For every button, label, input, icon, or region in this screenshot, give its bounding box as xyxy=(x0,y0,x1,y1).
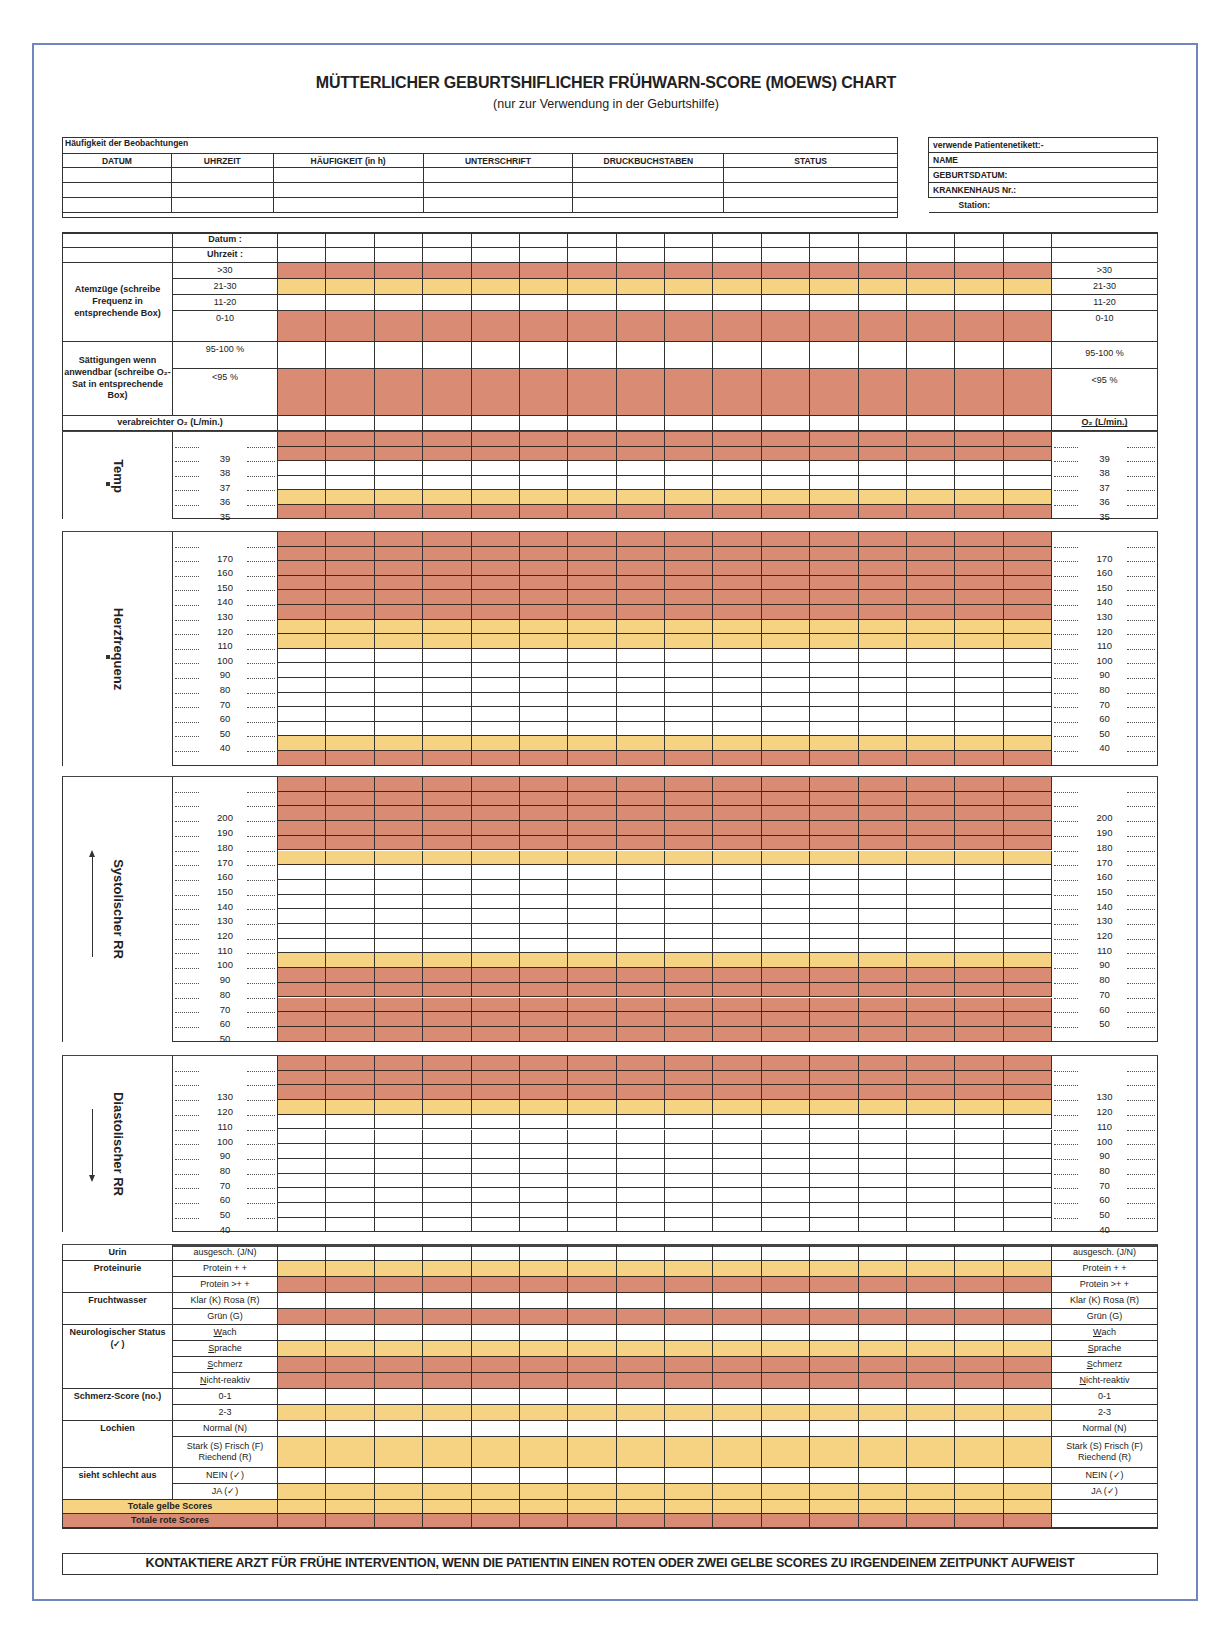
yellow-score-cell[interactable] xyxy=(568,1484,616,1500)
yellow-score-cell[interactable] xyxy=(423,634,471,649)
red-score-cell[interactable] xyxy=(665,1085,713,1100)
observation-cell[interactable] xyxy=(520,1188,568,1203)
red-score-cell[interactable] xyxy=(278,1027,326,1042)
observation-cell[interactable] xyxy=(713,295,761,311)
red-score-cell[interactable] xyxy=(520,547,568,562)
observation-cell[interactable] xyxy=(278,248,326,263)
red-score-cell[interactable] xyxy=(907,792,955,807)
yellow-score-cell[interactable] xyxy=(859,1500,907,1514)
red-score-cell[interactable] xyxy=(713,1027,761,1042)
red-score-cell[interactable] xyxy=(713,505,761,520)
red-score-cell[interactable] xyxy=(810,968,858,983)
red-score-cell[interactable] xyxy=(859,968,907,983)
observation-cell[interactable] xyxy=(520,461,568,476)
yellow-score-cell[interactable] xyxy=(375,1341,423,1357)
observation-cell[interactable] xyxy=(617,1421,665,1437)
observation-cell[interactable] xyxy=(665,909,713,924)
observation-cell[interactable] xyxy=(375,722,423,737)
red-score-cell[interactable] xyxy=(762,1309,810,1325)
red-score-cell[interactable] xyxy=(955,369,1003,416)
red-score-cell[interactable] xyxy=(472,983,520,998)
observation-cell[interactable] xyxy=(1004,1293,1052,1309)
red-score-cell[interactable] xyxy=(713,751,761,766)
observation-cell[interactable] xyxy=(1004,722,1052,737)
observation-cell[interactable] xyxy=(762,939,810,954)
observation-cell[interactable] xyxy=(423,693,471,708)
observation-cell[interactable] xyxy=(568,342,616,369)
observation-cell[interactable] xyxy=(955,416,1003,431)
observation-cell[interactable] xyxy=(472,693,520,708)
yellow-score-cell[interactable] xyxy=(859,953,907,968)
yellow-score-cell[interactable] xyxy=(375,1261,423,1277)
yellow-score-cell[interactable] xyxy=(326,1484,374,1500)
red-score-cell[interactable] xyxy=(326,590,374,605)
observation-cell[interactable] xyxy=(423,707,471,722)
red-score-cell[interactable] xyxy=(665,777,713,792)
red-score-cell[interactable] xyxy=(955,821,1003,836)
yellow-score-cell[interactable] xyxy=(568,634,616,649)
red-score-cell[interactable] xyxy=(472,751,520,766)
yellow-score-cell[interactable] xyxy=(472,1437,520,1468)
yellow-score-cell[interactable] xyxy=(326,1437,374,1468)
yellow-score-cell[interactable] xyxy=(617,279,665,295)
red-score-cell[interactable] xyxy=(423,432,471,447)
red-score-cell[interactable] xyxy=(665,751,713,766)
yellow-score-cell[interactable] xyxy=(423,1500,471,1514)
observation-cell[interactable] xyxy=(810,248,858,263)
observation-cell[interactable] xyxy=(278,1159,326,1174)
observation-cell[interactable] xyxy=(520,1115,568,1130)
observation-cell[interactable] xyxy=(326,295,374,311)
observation-cell[interactable] xyxy=(326,678,374,693)
observation-cell[interactable] xyxy=(810,232,858,248)
observation-cell[interactable] xyxy=(520,1293,568,1309)
observation-cell[interactable] xyxy=(665,1188,713,1203)
observation-cell[interactable] xyxy=(859,1293,907,1309)
observation-cell[interactable] xyxy=(423,342,471,369)
observation-cell[interactable] xyxy=(568,248,616,263)
yellow-score-cell[interactable] xyxy=(665,1405,713,1421)
yellow-score-cell[interactable] xyxy=(326,490,374,505)
observation-cell[interactable] xyxy=(1004,865,1052,880)
obs-cell[interactable] xyxy=(724,198,898,213)
red-score-cell[interactable] xyxy=(955,1514,1003,1528)
yellow-score-cell[interactable] xyxy=(810,1437,858,1468)
red-score-cell[interactable] xyxy=(423,1309,471,1325)
observation-cell[interactable] xyxy=(713,1130,761,1145)
yellow-score-cell[interactable] xyxy=(520,1437,568,1468)
red-score-cell[interactable] xyxy=(326,836,374,851)
observation-cell[interactable] xyxy=(955,342,1003,369)
yellow-score-cell[interactable] xyxy=(568,1405,616,1421)
observation-cell[interactable] xyxy=(1004,924,1052,939)
yellow-score-cell[interactable] xyxy=(762,1405,810,1421)
red-score-cell[interactable] xyxy=(713,1071,761,1086)
yellow-score-cell[interactable] xyxy=(955,736,1003,751)
yellow-score-cell[interactable] xyxy=(907,1261,955,1277)
observation-cell[interactable] xyxy=(617,939,665,954)
observation-cell[interactable] xyxy=(375,1159,423,1174)
observation-cell[interactable] xyxy=(375,678,423,693)
observation-cell[interactable] xyxy=(375,342,423,369)
red-score-cell[interactable] xyxy=(375,983,423,998)
red-score-cell[interactable] xyxy=(859,836,907,851)
observation-cell[interactable] xyxy=(568,1421,616,1437)
red-score-cell[interactable] xyxy=(326,447,374,462)
obs-cell[interactable] xyxy=(171,168,273,183)
red-score-cell[interactable] xyxy=(762,447,810,462)
patient-name-field[interactable]: NAME xyxy=(929,153,1158,168)
red-score-cell[interactable] xyxy=(907,1277,955,1293)
observation-cell[interactable] xyxy=(568,1389,616,1405)
observation-cell[interactable] xyxy=(278,1421,326,1437)
observation-cell[interactable] xyxy=(810,1389,858,1405)
yellow-score-cell[interactable] xyxy=(859,634,907,649)
red-score-cell[interactable] xyxy=(423,369,471,416)
observation-cell[interactable] xyxy=(278,1188,326,1203)
red-score-cell[interactable] xyxy=(423,532,471,547)
red-score-cell[interactable] xyxy=(713,983,761,998)
observation-cell[interactable] xyxy=(326,1293,374,1309)
yellow-score-cell[interactable] xyxy=(472,1405,520,1421)
yellow-score-cell[interactable] xyxy=(907,1437,955,1468)
red-score-cell[interactable] xyxy=(907,1309,955,1325)
red-score-cell[interactable] xyxy=(713,792,761,807)
red-score-cell[interactable] xyxy=(665,792,713,807)
observation-cell[interactable] xyxy=(859,1468,907,1484)
